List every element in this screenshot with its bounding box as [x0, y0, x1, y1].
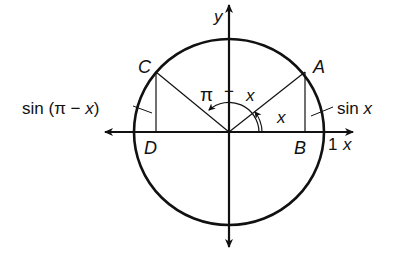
point-B-label: B [294, 138, 306, 158]
unit-tick-label: 1 [328, 135, 337, 154]
y-axis-label: y [213, 7, 224, 26]
point-C-label: C [138, 57, 152, 77]
unit-circle-diagram: y x 1 A C B D x π − x sin x sin (π − x) [0, 0, 395, 263]
point-D-label: D [144, 138, 157, 158]
angle-minus-label: − [224, 82, 234, 101]
x-axis-label: x [342, 135, 352, 154]
radius-OC [156, 72, 229, 132]
sin-pi-minus-x-label: sin (π − x) [22, 99, 99, 118]
angle-pi-label: π [200, 84, 213, 105]
point-A-label: A [312, 57, 325, 77]
angle-pi-x-label: x [245, 86, 255, 105]
radius-OA [229, 72, 305, 132]
sin-x-label: sin x [337, 99, 372, 118]
angle-x-label: x [276, 108, 286, 127]
